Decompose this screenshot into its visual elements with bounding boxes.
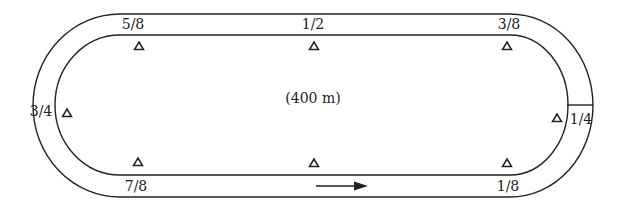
marker-label-one-eighth: 1/8 <box>497 178 520 194</box>
triangle-icon <box>553 114 562 122</box>
marker-label-one-half: 1/2 <box>302 16 325 32</box>
triangle-icon <box>134 158 143 166</box>
marker-label-three-eighths: 3/8 <box>498 16 521 32</box>
triangle-icon <box>135 42 144 50</box>
marker-label-seven-eighths: 7/8 <box>125 178 148 194</box>
triangle-icon <box>310 159 319 167</box>
triangle-icon <box>503 159 512 167</box>
track-diagram: 5/8 1/2 3/8 1/4 1/8 7/8 3/4 (400 m) <box>0 0 623 210</box>
track-svg: 5/8 1/2 3/8 1/4 1/8 7/8 3/4 (400 m) <box>0 0 623 210</box>
marker-label-one-quarter: 1/4 <box>570 111 593 127</box>
direction-arrow-icon <box>316 182 368 191</box>
marker-label-five-eighths: 5/8 <box>122 16 145 32</box>
triangle-icon <box>310 42 319 50</box>
marker-label-three-quarters: 3/4 <box>30 103 53 119</box>
track-length-label: (400 m) <box>285 90 340 106</box>
triangle-icon <box>63 109 72 117</box>
triangle-icon <box>503 42 512 50</box>
